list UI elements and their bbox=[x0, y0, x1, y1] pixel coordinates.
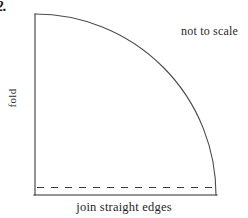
arc-curve bbox=[35, 14, 216, 195]
fold-axis-label: fold bbox=[6, 78, 18, 118]
not-to-scale-note: not to scale bbox=[181, 24, 238, 39]
figure-container: 2. fold not to scale join straight edges bbox=[0, 0, 248, 218]
join-straight-edges-caption: join straight edges bbox=[0, 200, 248, 215]
